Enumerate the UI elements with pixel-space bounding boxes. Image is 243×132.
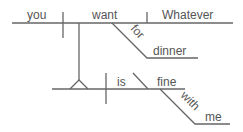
word-complement: fine: [157, 75, 177, 89]
sentence-diagram: you want Whatever for dinner is fine wit…: [0, 0, 243, 132]
word-clause-verb: is: [117, 75, 126, 89]
complement-slash: [133, 73, 148, 89]
word-preposition-for: for: [128, 22, 148, 42]
word-prep-object-me: me: [205, 110, 222, 124]
pedestal-fork: [70, 80, 88, 89]
word-subject: you: [27, 8, 46, 22]
word-object: Whatever: [162, 8, 213, 22]
word-verb: want: [91, 8, 118, 22]
word-prep-object-dinner: dinner: [153, 44, 186, 58]
